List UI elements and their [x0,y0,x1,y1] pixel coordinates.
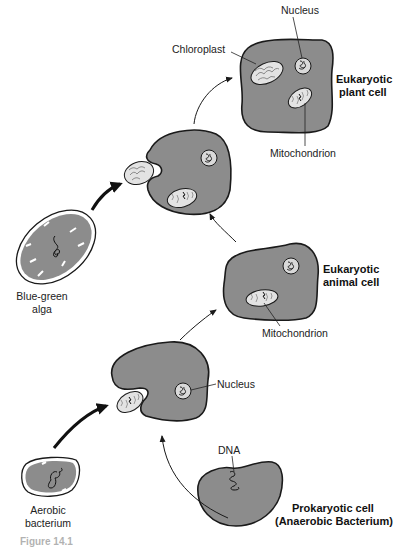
arrow-host-to-animal [180,310,216,340]
plant-nucleus-label: Nucleus [281,4,319,17]
alga-title-line2: alga [12,303,72,316]
arrow-aerobe-to-host [54,406,106,448]
alga-title-line1: Blue-green [12,290,72,303]
nucleus-icon [201,150,217,166]
nucleus-icon [175,383,191,399]
host-cell-engulfing-alga [121,130,231,214]
plant-chloroplast-label: Chloroplast [172,43,225,56]
animal-cell-title-line1: Eukaryotic [323,263,379,276]
prokaryotic-cell-body [198,462,283,526]
dna-label: DNA [218,444,240,457]
aerobic-bacterium [22,457,80,496]
prokaryotic-cell [198,456,283,526]
nucleus-icon [283,258,299,274]
plant-cell [231,17,333,146]
arrow-animal-to-host [210,214,236,242]
host-nucleus-label: Nucleus [217,378,255,391]
prokaryote-title-line2: (Anaerobic Bacterium) [275,515,393,528]
arrow-alga-to-host [92,184,120,210]
aerobe-title-line1: Aerobic [18,504,78,517]
plant-cell-title-line1: Eukaryotic [336,73,392,86]
prokaryote-title-line1: Prokaryotic cell [292,502,374,515]
animal-cell-body [224,243,319,320]
aerobe-title-line2: bacterium [18,517,78,530]
arrow-host-to-plant [194,78,232,124]
host-cell-engulfing-aerobe [112,342,216,421]
figure-caption-fragment: Figure 14.1 [20,536,73,547]
nucleus-icon [295,58,311,74]
animal-cell [224,243,319,326]
blue-green-alga [2,195,110,299]
plant-cell-title-line2: plant cell [339,86,387,99]
animal-cell-title-line2: animal cell [323,276,379,289]
animal-mitochondrion-label: Mitochondrion [262,327,328,340]
plant-mitochondrion-label: Mitochondrion [270,147,336,160]
plant-cell-body [240,39,333,132]
